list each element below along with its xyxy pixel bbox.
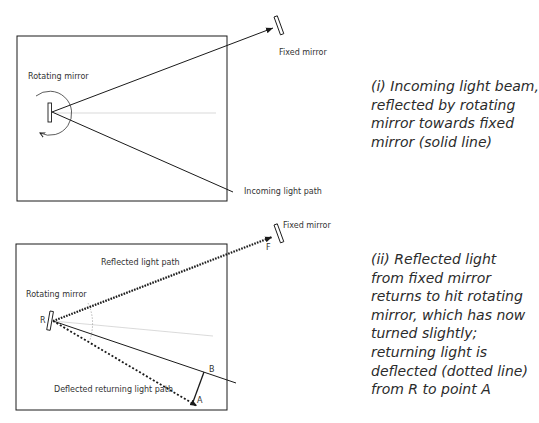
fixed-mirror-label: Fixed mirror (279, 48, 327, 58)
point-a-label: A (197, 396, 202, 406)
point-b-label: B (209, 365, 215, 375)
panel-1 (17, 16, 284, 201)
point-r-label: R (40, 316, 46, 326)
caption-i: (i) Incoming light beam, reflected by ro… (371, 77, 521, 151)
reflected-beam (52, 28, 273, 112)
caption-line: deflected (dotted line) (371, 362, 521, 381)
caption-ii: (ii) Reflected light from fixed mirror r… (371, 250, 521, 399)
caption-line: mirror (solid line) (371, 133, 521, 152)
rotating-mirror-label: Rotating mirror (26, 290, 87, 300)
caption-line: (ii) Reflected light (371, 250, 521, 269)
caption-line: turned slightly; (371, 324, 521, 343)
rotating-mirror-label: Rotating mirror (28, 72, 89, 82)
caption-line: returns to hit rotating (371, 287, 521, 306)
caption-line: reflected by rotating (371, 96, 521, 115)
rotating-mirror (47, 311, 54, 330)
caption-line: from R to point A (371, 380, 521, 399)
fixed-mirror (274, 16, 284, 35)
reflected-path-label: Reflected light path (101, 258, 180, 268)
fixed-mirror-label: Fixed mirror (283, 221, 331, 231)
caption-line: mirror, which has now (371, 306, 521, 325)
caption-line: (i) Incoming light beam, (371, 77, 521, 96)
deflected-path-label: Deflected returning light path (54, 385, 173, 395)
reflected-beam (53, 237, 272, 321)
panel-2 (16, 224, 284, 410)
incoming-path-label: Incoming light path (244, 187, 322, 197)
incoming-beam (52, 112, 233, 192)
caption-line: mirror towards fixed (371, 114, 521, 133)
caption-line: from fixed mirror (371, 269, 521, 288)
reference-line (53, 321, 213, 336)
caption-line: returning light is (371, 343, 521, 362)
rotating-mirror (48, 103, 52, 122)
point-f-label: F (266, 243, 271, 253)
